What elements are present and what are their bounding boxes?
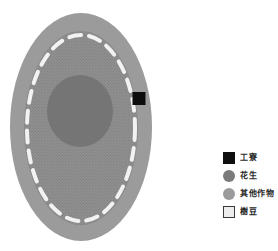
circle-swatch-icon	[223, 188, 235, 200]
square-outline-swatch-icon	[223, 206, 235, 218]
circle-swatch-icon	[223, 170, 235, 182]
legend-item-label: 工寮	[240, 152, 257, 164]
legend-item-work-hut: 工寮	[223, 149, 274, 167]
legend-item-label: 其他作物	[240, 188, 274, 200]
legend-item-label: 樹豆	[240, 206, 257, 218]
legend-item-peanut: 花生	[223, 167, 274, 185]
square-swatch-icon	[223, 152, 235, 164]
legend-item-other-crops: 其他作物	[223, 185, 274, 203]
legend-item-label: 花生	[240, 170, 257, 182]
peanut-texture	[47, 75, 113, 147]
work-hut-marker	[133, 92, 146, 105]
figure: 工寮 花生 其他作物 樹豆	[0, 0, 278, 251]
legend: 工寮 花生 其他作物 樹豆	[223, 149, 274, 221]
legend-item-pigeon-pea: 樹豆	[223, 203, 274, 221]
